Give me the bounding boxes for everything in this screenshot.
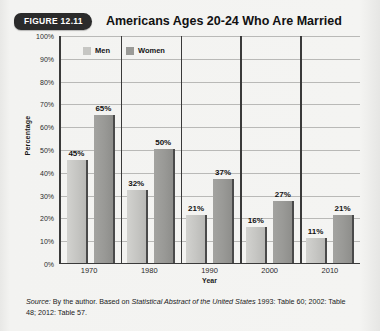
bar-women-1980[interactable]: 50% [154, 149, 175, 263]
y-axis-tick-label: 40% [40, 169, 54, 176]
bar-value-label: 27% [275, 190, 291, 199]
bar-group-1970: 45%65% [61, 36, 121, 263]
figure-page: FIGURE 12.11 Americans Ages 20-24 Who Ar… [0, 0, 380, 331]
bar-value-label: 21% [188, 204, 204, 213]
bar-men-1980[interactable]: 32% [127, 190, 148, 263]
legend-item-men: Men [83, 46, 110, 55]
bar-wrapper: 27% [273, 201, 294, 263]
bar-wrapper: 16% [246, 227, 267, 263]
bar-wrapper: 32% [127, 190, 148, 263]
bar-men-2000[interactable]: 16% [246, 227, 267, 263]
y-axis-tick-label: 80% [40, 78, 54, 85]
bar-group-1980: 32%50% [121, 36, 181, 263]
y-axis-tick-labels: 100%90%80%70%60%50%40%30%20%10%0% [28, 36, 56, 264]
bar-group-2010: 11%21% [300, 36, 360, 263]
bar-wrapper: 65% [94, 115, 115, 263]
chart-title: Americans Ages 20-24 Who Are Married [106, 14, 342, 28]
y-axis-tick-label: 30% [40, 192, 54, 199]
bar-value-label: 37% [215, 168, 231, 177]
source-note: Source: By the author. Based on Statisti… [26, 297, 356, 319]
legend-swatch-icon [126, 47, 134, 55]
x-axis-tick-label-1970: 1970 [59, 266, 119, 275]
y-axis-tick-label: 10% [40, 238, 54, 245]
x-axis-tick-label-1990: 1990 [179, 266, 239, 275]
bar-group-1990: 21%37% [181, 36, 241, 263]
bar-wrapper: 45% [67, 160, 88, 263]
bar-value-label: 21% [335, 204, 351, 213]
x-axis-tick-label-2010: 2010 [300, 266, 360, 275]
chart-container: Percentage 100%90%80%70%60%50%40%30%20%1… [14, 36, 366, 288]
figure-number-label: FIGURE 12.11 [24, 16, 83, 26]
bar-wrapper: 21% [186, 215, 207, 263]
x-axis-tick-label-1980: 1980 [119, 266, 179, 275]
bar-groups: 45%65%32%50%21%37%16%27%11%21% [61, 36, 360, 263]
y-axis-tick-label: 50% [40, 147, 54, 154]
bar-men-1970[interactable]: 45% [67, 160, 88, 263]
bar-women-1970[interactable]: 65% [94, 115, 115, 263]
bar-value-label: 50% [155, 138, 171, 147]
bar-wrapper: 37% [213, 179, 234, 263]
source-prefix: Source: [26, 297, 51, 306]
source-publication-title: Statistical Abstract of the United State… [132, 297, 256, 306]
y-axis-tick-label: 90% [40, 55, 54, 62]
chart-legend: MenWomen [83, 46, 165, 55]
bar-value-label: 11% [308, 227, 324, 236]
bar-wrapper: 21% [333, 215, 354, 263]
bar-women-2000[interactable]: 27% [273, 201, 294, 263]
source-text-1: By the author. Based on [51, 297, 132, 306]
bar-women-2010[interactable]: 21% [333, 215, 354, 263]
y-axis-tick-label: 70% [40, 101, 54, 108]
plot-area: MenWomen 45%65%32%50%21%37%16%27%11%21% [59, 36, 360, 264]
bar-value-label: 32% [128, 179, 144, 188]
legend-label: Women [138, 46, 165, 55]
bar-wrapper: 11% [306, 238, 327, 263]
bar-women-1990[interactable]: 37% [213, 179, 234, 263]
bar-men-2010[interactable]: 11% [306, 238, 327, 263]
x-axis-tick-label-2000: 2000 [240, 266, 300, 275]
y-axis-tick-label: 60% [40, 124, 54, 131]
bar-men-1990[interactable]: 21% [186, 215, 207, 263]
y-axis-tick-label: 20% [40, 215, 54, 222]
bar-value-label: 16% [248, 216, 264, 225]
x-axis-title: Year [59, 277, 360, 284]
x-axis-tick-labels: 19701980199020002010 [59, 266, 360, 275]
bar-wrapper: 50% [154, 149, 175, 263]
legend-item-women: Women [126, 46, 165, 55]
y-axis-tick-label: 0% [44, 261, 54, 268]
legend-label: Men [95, 46, 110, 55]
y-axis-tick-label: 100% [36, 33, 54, 40]
bar-value-label: 65% [95, 104, 111, 113]
figure-number-badge: FIGURE 12.11 [14, 13, 92, 30]
bar-value-label: 45% [68, 149, 84, 158]
legend-swatch-icon [83, 47, 91, 55]
figure-header: FIGURE 12.11 Americans Ages 20-24 Who Ar… [14, 9, 366, 33]
bar-group-2000: 16%27% [240, 36, 300, 263]
